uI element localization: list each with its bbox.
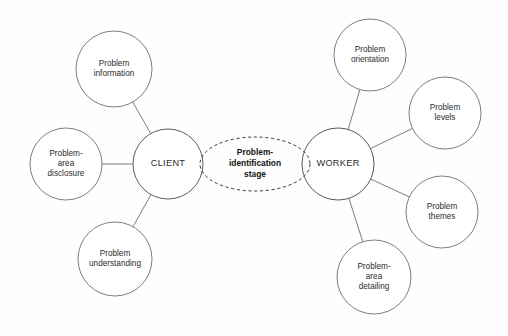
node-problem-orientation-label: Problemorientation — [351, 45, 390, 64]
connector-client-to-problem-understanding — [133, 195, 151, 227]
node-problem-area-detailing[interactable]: Problem-areadetailing — [337, 240, 411, 314]
node-problem-orientation[interactable]: Problemorientation — [334, 19, 406, 91]
node-problem-understanding-label-line: understanding — [89, 259, 141, 268]
stage-problem-identification-stage-label: Problem-identificationstage — [229, 148, 281, 179]
node-problem-information[interactable]: Probleminformation — [76, 31, 152, 107]
diagram-root: ProbleminformationProblem-areadisclosure… — [0, 0, 508, 336]
stage-problem-identification-stage[interactable]: Problem-identificationstage — [200, 137, 310, 191]
connector-worker-to-problem-orientation — [348, 90, 360, 130]
node-problem-themes[interactable]: Problemthemes — [406, 176, 478, 248]
node-problem-themes-label-line: Problem — [427, 202, 458, 211]
stage-problem-identification-stage-label-line: identification — [229, 158, 281, 168]
hub-worker-label: WORKER — [316, 158, 359, 168]
node-problem-area-detailing-label-line: area — [366, 272, 383, 281]
connector-worker-to-problem-levels — [371, 128, 413, 148]
node-problem-area-detailing-label-line: detailing — [359, 282, 390, 291]
node-problem-orientation-label-line: orientation — [351, 55, 390, 64]
node-problem-area-disclosure-label-line: disclosure — [48, 169, 85, 178]
node-problem-information-label-line: information — [94, 69, 135, 78]
stage-problem-identification-stage-label-line: stage — [244, 169, 266, 179]
node-problem-orientation-label-line: Problem — [355, 45, 386, 54]
node-problem-information-label: Probleminformation — [94, 59, 135, 78]
node-problem-area-disclosure-label-line: Problem- — [49, 149, 82, 158]
stage-problem-identification-stage-label-line: Problem- — [237, 148, 274, 158]
node-problem-area-disclosure[interactable]: Problem-areadisclosure — [30, 128, 102, 200]
node-problem-understanding-label-line: Problem — [100, 249, 131, 258]
connector-worker-to-problem-themes — [371, 179, 410, 197]
hub-worker[interactable]: WORKER — [302, 128, 374, 200]
node-problem-themes-label: Problemthemes — [427, 202, 458, 221]
diagram-canvas: ProbleminformationProblem-areadisclosure… — [0, 0, 508, 336]
node-problem-themes-label-line: themes — [429, 212, 456, 221]
connector-client-to-problem-information — [133, 102, 151, 134]
node-problem-understanding[interactable]: Problemunderstanding — [78, 222, 152, 296]
hub-client-label-line: CLIENT — [151, 158, 186, 168]
node-problem-information-label-line: Problem — [99, 59, 130, 68]
hub-client-label: CLIENT — [151, 158, 186, 168]
stage-layer: Problem-identificationstage — [200, 137, 310, 191]
node-problem-levels-label-line: levels — [435, 113, 456, 122]
hub-client[interactable]: CLIENT — [133, 129, 203, 199]
node-problem-area-disclosure-label-line: area — [58, 159, 75, 168]
node-problem-levels[interactable]: Problemlevels — [409, 77, 481, 149]
node-problem-area-detailing-label-line: Problem- — [357, 262, 390, 271]
hub-worker-label-line: WORKER — [316, 158, 359, 168]
node-problem-levels-label-line: Problem — [430, 103, 461, 112]
connector-worker-to-problem-area-detailing — [349, 198, 363, 241]
